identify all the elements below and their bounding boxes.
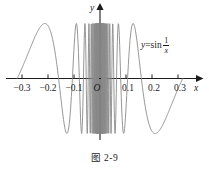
xtick-label-neg-0-1: −0.1 xyxy=(65,83,82,93)
xtick-label-neg-0-2: −0.2 xyxy=(39,83,56,93)
xtick-label-neg-0-3: −0.3 xyxy=(13,83,30,93)
function-label-fraction: 1 x xyxy=(163,37,169,55)
x-axis-label: x xyxy=(193,83,199,93)
origin-label: O xyxy=(94,83,101,93)
y-axis-arrow-icon xyxy=(96,3,103,10)
y-axis-label: y xyxy=(89,3,95,13)
fraction-numerator: 1 xyxy=(163,37,169,46)
function-label: y=sin 1 x xyxy=(141,37,169,55)
figure-sin-one-over-x: −0.3 −0.2 −0.1 0.1 0.2 0.3 O x y y=sin 1… xyxy=(0,0,209,170)
xtick-label-0-2: 0.2 xyxy=(148,83,160,93)
figure-caption: 图 2-9 xyxy=(0,150,209,164)
x-axis-arrow-icon xyxy=(196,75,204,82)
plot-canvas: −0.3 −0.2 −0.1 0.1 0.2 0.3 O x y xyxy=(0,0,209,148)
xtick-label-0-1: 0.1 xyxy=(122,83,134,93)
fraction-denominator: x xyxy=(163,45,169,55)
function-label-op: sin xyxy=(151,41,162,51)
xtick-label-0-3: 0.3 xyxy=(174,83,186,93)
